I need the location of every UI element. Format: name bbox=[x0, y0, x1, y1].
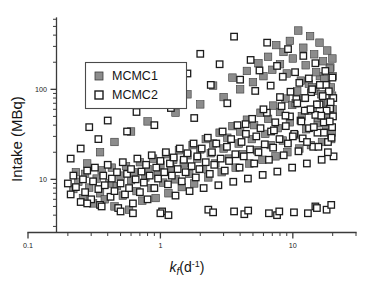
data-point bbox=[95, 186, 102, 193]
data-point bbox=[194, 153, 201, 160]
data-point bbox=[286, 37, 294, 45]
data-point bbox=[237, 76, 244, 83]
data-point bbox=[294, 88, 302, 96]
data-point bbox=[230, 179, 237, 186]
data-point bbox=[191, 115, 198, 122]
data-point bbox=[219, 128, 226, 135]
data-point bbox=[289, 164, 296, 171]
data-point bbox=[287, 88, 294, 95]
data-point bbox=[231, 33, 238, 40]
data-point bbox=[111, 138, 119, 146]
data-point bbox=[65, 180, 72, 187]
data-point bbox=[221, 167, 228, 174]
data-point bbox=[289, 55, 297, 63]
data-point bbox=[257, 125, 264, 132]
data-point bbox=[307, 106, 314, 113]
data-point bbox=[203, 159, 210, 166]
data-point bbox=[157, 210, 164, 217]
data-point bbox=[104, 117, 111, 124]
data-point bbox=[224, 100, 231, 107]
data-point bbox=[312, 60, 319, 67]
legend-marker-mcmc1 bbox=[95, 72, 103, 80]
data-point bbox=[245, 207, 252, 214]
data-point bbox=[302, 62, 310, 70]
data-point bbox=[128, 166, 135, 173]
data-point bbox=[133, 109, 140, 116]
data-point bbox=[318, 157, 325, 164]
data-point bbox=[177, 145, 184, 152]
data-point bbox=[294, 100, 301, 107]
data-point bbox=[305, 210, 312, 217]
data-point bbox=[310, 51, 318, 59]
data-point bbox=[280, 152, 287, 159]
data-point bbox=[249, 78, 257, 86]
data-point bbox=[295, 148, 302, 155]
data-point bbox=[67, 191, 74, 198]
data-point bbox=[172, 192, 179, 199]
data-point bbox=[80, 176, 87, 183]
data-point bbox=[143, 162, 150, 169]
data-point bbox=[266, 157, 273, 164]
data-point bbox=[196, 166, 203, 173]
data-point bbox=[242, 121, 249, 128]
x-tick-label: 1 bbox=[158, 241, 162, 250]
data-point bbox=[285, 140, 292, 147]
data-point bbox=[100, 172, 107, 179]
data-point bbox=[296, 80, 303, 87]
data-point bbox=[311, 124, 318, 130]
data-point bbox=[272, 153, 280, 161]
data-point bbox=[317, 82, 324, 89]
data-point bbox=[165, 181, 172, 188]
data-point bbox=[319, 93, 326, 100]
data-point bbox=[130, 210, 137, 217]
data-point bbox=[190, 140, 197, 147]
data-point bbox=[215, 182, 222, 189]
data-point bbox=[148, 152, 155, 159]
data-point bbox=[197, 101, 205, 109]
data-point bbox=[226, 158, 233, 165]
x-axis-title: kf(d-1) bbox=[170, 259, 205, 277]
data-point bbox=[186, 188, 193, 195]
data-point bbox=[316, 39, 324, 47]
data-point bbox=[209, 149, 216, 156]
data-point bbox=[304, 160, 311, 167]
data-point bbox=[70, 172, 77, 179]
data-point bbox=[321, 129, 328, 136]
data-point bbox=[314, 205, 321, 212]
data-point bbox=[216, 61, 223, 67]
data-point bbox=[210, 209, 217, 216]
data-point bbox=[328, 134, 335, 141]
data-point bbox=[184, 150, 191, 157]
data-point bbox=[290, 133, 297, 140]
data-point bbox=[276, 136, 283, 143]
data-point bbox=[312, 68, 320, 76]
data-point bbox=[134, 155, 141, 162]
data-point bbox=[117, 208, 124, 215]
data-point bbox=[207, 171, 214, 178]
data-point bbox=[224, 144, 231, 151]
data-point bbox=[144, 196, 151, 203]
data-point bbox=[315, 144, 322, 151]
data-point bbox=[329, 55, 337, 63]
data-point bbox=[217, 155, 224, 162]
data-point bbox=[104, 162, 111, 169]
data-point bbox=[77, 199, 84, 206]
data-point bbox=[84, 167, 91, 174]
data-point bbox=[174, 166, 181, 173]
data-point bbox=[236, 86, 244, 94]
data-point bbox=[179, 178, 186, 185]
data-point bbox=[213, 140, 220, 147]
data-point bbox=[130, 200, 137, 207]
data-point bbox=[77, 145, 84, 152]
data-point bbox=[247, 57, 254, 64]
data-point bbox=[161, 169, 168, 176]
data-point bbox=[276, 208, 283, 215]
data-point bbox=[238, 139, 245, 146]
data-point bbox=[300, 44, 308, 52]
legend-label-mcmc1: MCMC1 bbox=[112, 69, 158, 83]
data-point bbox=[200, 185, 207, 192]
plot-canvas: 10100 0.1110 MCMC1 MCMC2 Intake (MBq) kf… bbox=[0, 0, 374, 282]
data-point bbox=[193, 174, 200, 181]
data-point bbox=[298, 118, 305, 125]
data-point bbox=[211, 162, 218, 169]
